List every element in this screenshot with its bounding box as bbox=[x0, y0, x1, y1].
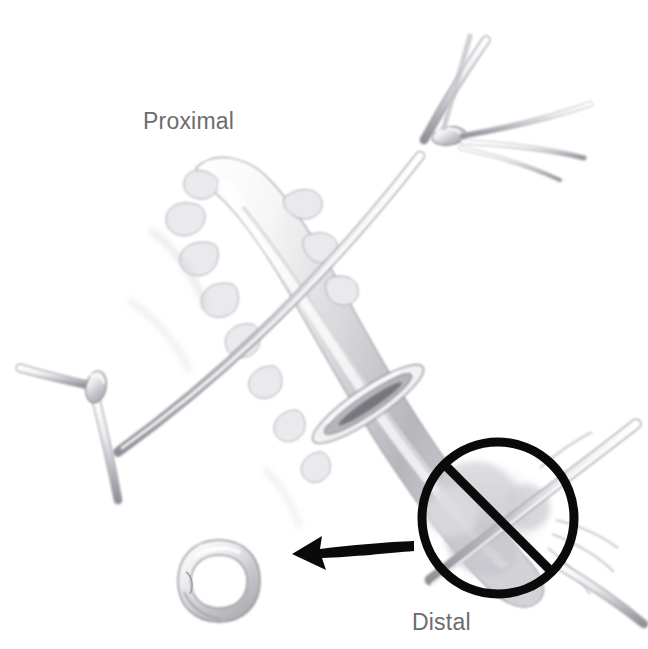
label-proximal: Proximal bbox=[143, 110, 234, 133]
figure-root: Proximal Distal bbox=[0, 0, 648, 649]
cross-section-lumen bbox=[191, 555, 247, 608]
surgical-illustration bbox=[0, 0, 648, 649]
vessel-cross-section bbox=[178, 540, 260, 622]
label-distal: Distal bbox=[412, 611, 471, 634]
